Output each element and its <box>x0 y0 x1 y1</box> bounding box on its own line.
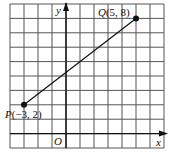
axes <box>10 2 168 148</box>
coordinate-plane: x y O P(−3, 2) Q(5, 8) <box>0 0 170 159</box>
y-axis-label: y <box>55 4 61 16</box>
origin-label: O <box>54 135 62 147</box>
x-axis-label: x <box>155 136 161 148</box>
point-q-label: Q(5, 8) <box>98 6 130 19</box>
point-q-marker <box>133 15 139 21</box>
point-p-label: P(−3, 2) <box>4 108 42 121</box>
grid-lines <box>10 4 164 148</box>
